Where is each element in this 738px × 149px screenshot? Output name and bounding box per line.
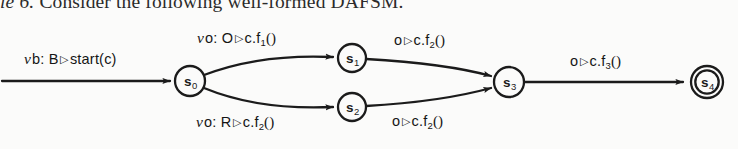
transition-label-s2-s3: o▷c.f2() xyxy=(392,113,443,130)
triangle-icon-s0-s1: ▷ xyxy=(233,32,244,44)
figure-page: le 6. Consider the following well-formed… xyxy=(0,0,738,149)
edge-s0-to-s1 xyxy=(204,57,333,75)
action-s0-s1: c.f xyxy=(245,30,261,46)
edge-s1-to-s3 xyxy=(366,59,491,76)
triangle-icon-start: ▷ xyxy=(59,53,70,65)
action-start: start(c) xyxy=(70,51,117,67)
state-label-s0-letter: s xyxy=(184,74,192,89)
action-paren-s0-s1: () xyxy=(266,30,276,46)
nu-symbol-s0-s1: ν xyxy=(197,29,205,46)
edge-s0-to-s2 xyxy=(204,88,333,107)
guard-s0-s1: O xyxy=(222,30,233,46)
state-label-s3-sub: 3 xyxy=(511,81,516,92)
state-label-s2-sub: 2 xyxy=(354,106,359,117)
binder-s0-s2: o: xyxy=(204,114,217,130)
action-s1-s3: c.f xyxy=(413,32,429,48)
state-label-s0-sub: 0 xyxy=(192,80,197,91)
transition-label-start: νb: B▷start(c) xyxy=(24,50,117,68)
guard-s0-s2: R xyxy=(221,114,232,130)
action-paren-s2-s3: () xyxy=(433,113,443,129)
action-sub-s3-s4: 3 xyxy=(605,60,610,71)
binder-s0-s1: o: xyxy=(205,30,218,46)
action-paren-s3-s4: () xyxy=(611,53,621,69)
state-label-s3-letter: s xyxy=(503,75,511,90)
action-s0-s2: c.f xyxy=(243,114,259,130)
action-sub-s1-s3: 2 xyxy=(429,39,434,50)
state-label-s1-letter: s xyxy=(346,51,354,66)
action-s3-s4: c.f xyxy=(589,53,605,69)
action-paren-s0-s2: () xyxy=(264,114,274,130)
triangle-icon-s3-s4: ▷ xyxy=(578,55,589,67)
guard-start: B xyxy=(49,51,59,67)
transition-label-s0-s2: νo: R▷c.f2() xyxy=(196,113,275,131)
state-label-s4-sub: 4 xyxy=(709,81,714,92)
state-label-s2-letter: s xyxy=(346,100,354,115)
triangle-icon-s1-s3: ▷ xyxy=(402,34,413,46)
action-paren-s1-s3: () xyxy=(435,32,445,48)
nu-symbol-start: ν xyxy=(24,50,32,67)
dafsm-state-diagram: s 0 s 1 s 2 s 3 s 4 νb: B▷start(c) νo: O… xyxy=(0,0,738,149)
state-label-s1-sub: 1 xyxy=(354,57,359,68)
state-label-s4-letter: s xyxy=(701,75,709,90)
action-sub-s0-s1: 1 xyxy=(260,37,265,48)
action-sub-s0-s2: 2 xyxy=(259,121,264,132)
binder-start: b: xyxy=(32,51,45,67)
edge-s2-to-s3 xyxy=(366,88,491,106)
nu-symbol-s0-s2: ν xyxy=(196,113,204,130)
transition-label-s3-s4: o▷c.f3() xyxy=(570,53,621,70)
transition-label-s1-s3: o▷c.f2() xyxy=(394,32,445,49)
triangle-icon-s0-s2: ▷ xyxy=(232,116,243,128)
action-s2-s3: c.f xyxy=(411,113,427,129)
transition-label-s0-s1: νo: O▷c.f1() xyxy=(197,29,276,47)
diagram-canvas: s 0 s 1 s 2 s 3 s 4 xyxy=(0,0,738,149)
action-sub-s2-s3: 2 xyxy=(427,120,432,131)
triangle-icon-s2-s3: ▷ xyxy=(400,115,411,127)
